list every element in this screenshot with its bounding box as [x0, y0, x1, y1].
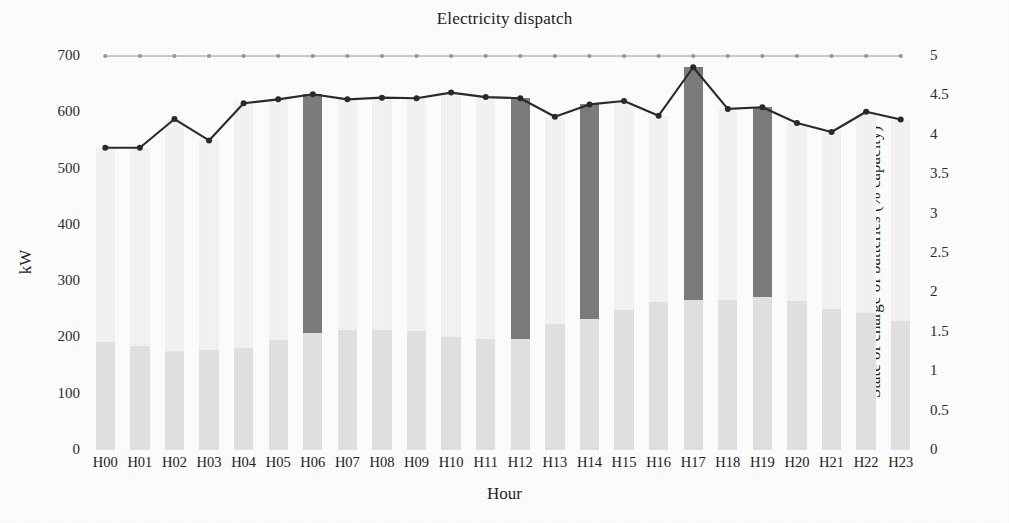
y-axis-left-tick: 700 — [24, 48, 80, 63]
plot-surface — [88, 56, 918, 450]
soc-marker — [829, 54, 833, 58]
y-axis-left-tick: 200 — [24, 329, 80, 344]
soc-marker — [484, 54, 488, 58]
demand-marker — [794, 120, 800, 126]
soc-marker — [795, 54, 799, 58]
soc-marker — [345, 54, 349, 58]
demand-marker — [344, 96, 350, 102]
y-axis-left-title: kW — [16, 249, 36, 274]
demand-marker — [275, 96, 281, 102]
demand-marker — [379, 95, 385, 101]
demand-line — [105, 67, 900, 147]
y-axis-left-tick: 600 — [24, 104, 80, 119]
demand-marker — [829, 129, 835, 135]
soc-marker — [414, 54, 418, 58]
chart-title: Electricity dispatch — [0, 9, 1009, 29]
y-axis-right-tick: 1.5 — [930, 324, 970, 339]
soc-marker — [172, 54, 176, 58]
y-axis-right-tick: 2 — [930, 284, 970, 299]
y-axis-right-tick: 4 — [930, 127, 970, 142]
x-axis-tick: H22 — [854, 455, 879, 470]
soc-marker — [553, 54, 557, 58]
y-axis-left-tick: 0 — [24, 442, 80, 457]
x-axis-tick: H19 — [750, 455, 775, 470]
x-axis-tick: H23 — [888, 455, 913, 470]
demand-marker — [725, 106, 731, 112]
x-axis-tick: H07 — [335, 455, 360, 470]
y-axis-left-tick: 400 — [24, 217, 80, 232]
soc-marker — [311, 54, 315, 58]
demand-marker — [517, 95, 523, 101]
plot-area — [88, 56, 918, 450]
demand-marker — [206, 137, 212, 143]
chart-figure: Electricity dispatch kW State of charge … — [0, 0, 1009, 523]
soc-marker — [622, 54, 626, 58]
y-axis-right-tick: 3 — [930, 206, 970, 221]
soc-marker — [760, 54, 764, 58]
x-axis-tick: H13 — [542, 455, 567, 470]
x-axis-tick: H11 — [473, 455, 497, 470]
soc-marker — [138, 54, 142, 58]
soc-marker — [518, 54, 522, 58]
soc-marker — [207, 54, 211, 58]
soc-marker — [380, 54, 384, 58]
soc-marker — [864, 54, 868, 58]
x-axis-tick: H05 — [266, 455, 291, 470]
x-axis-tick: H03 — [197, 455, 222, 470]
demand-marker — [898, 117, 904, 123]
soc-marker — [449, 54, 453, 58]
demand-marker — [552, 114, 558, 120]
x-axis-tick: H04 — [231, 455, 256, 470]
x-axis-tick: H10 — [439, 455, 464, 470]
x-axis-tick: H21 — [819, 455, 844, 470]
soc-marker — [726, 54, 730, 58]
y-axis-right-tick: 5 — [930, 48, 970, 63]
x-axis-tick: H15 — [612, 455, 637, 470]
soc-marker — [276, 54, 280, 58]
demand-marker — [137, 145, 143, 151]
x-axis-tick: H16 — [646, 455, 671, 470]
x-axis-tick: H17 — [681, 455, 706, 470]
demand-marker — [656, 113, 662, 119]
demand-marker — [171, 116, 177, 122]
demand-marker — [863, 109, 869, 115]
demand-marker — [586, 101, 592, 107]
soc-marker — [899, 54, 903, 58]
x-axis-tick: H09 — [404, 455, 429, 470]
x-axis-title: Hour — [0, 484, 1009, 504]
demand-marker — [448, 90, 454, 96]
y-axis-left-tick: 100 — [24, 386, 80, 401]
x-axis-tick: H18 — [715, 455, 740, 470]
y-axis-left-tick: 300 — [24, 273, 80, 288]
x-axis-tick: H08 — [369, 455, 394, 470]
demand-marker — [414, 95, 420, 101]
x-axis-tick: H01 — [127, 455, 152, 470]
demand-marker — [621, 98, 627, 104]
soc-marker — [691, 54, 695, 58]
x-axis-tick: H20 — [784, 455, 809, 470]
x-axis-tick: H02 — [162, 455, 187, 470]
y-axis-right-tick: 4.5 — [930, 87, 970, 102]
demand-marker — [483, 94, 489, 100]
y-axis-left-tick: 500 — [24, 161, 80, 176]
x-axis-tick: H06 — [300, 455, 325, 470]
demand-marker — [241, 100, 247, 106]
x-axis-tick: H12 — [508, 455, 533, 470]
soc-marker — [587, 54, 591, 58]
soc-marker — [657, 54, 661, 58]
demand-marker — [690, 64, 696, 70]
series-overlay — [88, 56, 918, 450]
x-axis-tick: H14 — [577, 455, 602, 470]
demand-marker — [310, 91, 316, 97]
demand-marker — [102, 145, 108, 151]
soc-marker — [242, 54, 246, 58]
demand-marker — [759, 104, 765, 110]
y-axis-right-tick: 2.5 — [930, 245, 970, 260]
x-axis-tick: H00 — [93, 455, 118, 470]
y-axis-right-tick: 1 — [930, 363, 970, 378]
y-axis-right-tick: 0 — [930, 442, 970, 457]
soc-marker — [103, 54, 107, 58]
y-axis-right-tick: 0.5 — [930, 403, 970, 418]
y-axis-right-tick: 3.5 — [930, 166, 970, 181]
